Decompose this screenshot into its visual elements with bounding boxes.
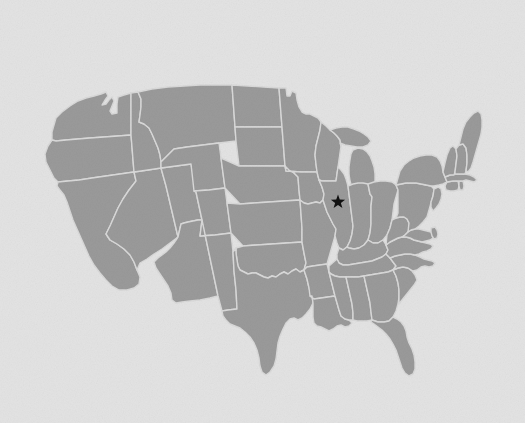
- state-north-dakota: [232, 85, 282, 127]
- us-map-svg: [0, 0, 525, 423]
- state-rhode-island: [459, 181, 464, 190]
- state-washington: [52, 92, 131, 141]
- state-delaware: [431, 227, 438, 239]
- states-layer: [45, 85, 482, 376]
- state-minnesota: [279, 88, 321, 172]
- state-north-carolina: [390, 254, 435, 271]
- state-new-york: [396, 155, 447, 186]
- state-south-dakota: [235, 127, 285, 166]
- state-florida: [371, 317, 415, 376]
- us-map-figure: [0, 0, 525, 423]
- state-kansas: [227, 200, 302, 246]
- state-new-hampshire: [455, 144, 467, 174]
